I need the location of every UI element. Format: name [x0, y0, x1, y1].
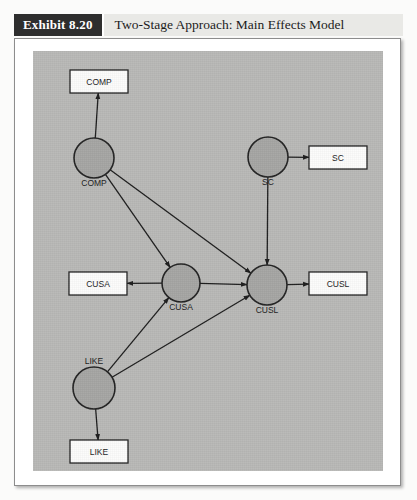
- construct-label: CUSL: [256, 305, 279, 315]
- path-arrow-comp-to-cusl: [110, 170, 251, 273]
- path-arrow-cusa-to-cusl: [200, 283, 247, 284]
- construct-label: SC: [262, 177, 274, 187]
- construct-cusa: CUSA: [162, 264, 200, 312]
- indicator-label: COMP: [86, 77, 112, 87]
- indicator-cusa: CUSA: [69, 272, 127, 295]
- path-model-diagram: COMPSCCUSACUSLLIKECOMPSCCUSACUSLLIKE: [33, 51, 383, 471]
- construct-comp: COMP: [74, 138, 114, 188]
- exhibit-header: Exhibit 8.20 Two-Stage Approach: Main Ef…: [14, 14, 403, 36]
- indicator-label: LIKE: [90, 447, 109, 457]
- indicator-cusl: CUSL: [309, 272, 367, 295]
- construct-sc: SC: [248, 137, 288, 187]
- indicator-like: LIKE: [70, 440, 128, 463]
- construct-label: CUSA: [169, 302, 193, 312]
- construct-label: COMP: [81, 178, 107, 188]
- exhibit-number-tag: Exhibit 8.20: [14, 14, 102, 36]
- construct-cusl: CUSL: [247, 265, 287, 315]
- indicator-label: CUSL: [327, 279, 350, 289]
- path-nodes: COMPSCCUSACUSLLIKECOMPSCCUSACUSLLIKE: [69, 70, 367, 463]
- figure-frame: COMPSCCUSACUSLLIKECOMPSCCUSACUSLLIKE: [14, 38, 401, 486]
- path-arrow-comp-to-comp_ind: [95, 93, 98, 138]
- exhibit-page: Exhibit 8.20 Two-Stage Approach: Main Ef…: [0, 0, 417, 500]
- page-title: Two-Stage Approach: Main Effects Model: [102, 14, 403, 36]
- path-arrow-sc-to-cusl: [267, 177, 268, 265]
- indicator-label: SC: [332, 153, 344, 163]
- diagram-canvas: COMPSCCUSACUSLLIKECOMPSCCUSACUSLLIKE: [33, 51, 383, 471]
- construct-label: LIKE: [85, 356, 104, 366]
- indicator-sc: SC: [309, 146, 367, 169]
- path-arrow-comp-to-cusa: [105, 174, 170, 267]
- indicator-label: CUSA: [86, 279, 110, 289]
- construct-like: LIKE: [73, 356, 115, 409]
- indicator-comp: COMP: [70, 70, 128, 93]
- path-arrow-like-to-like_ind: [96, 409, 98, 440]
- path-arrow-like-to-cusa: [107, 298, 168, 372]
